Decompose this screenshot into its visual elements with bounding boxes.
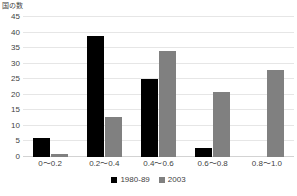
x-tick-label: 0〜0.2 [23,159,77,169]
bar-group [77,17,131,157]
y-tick-label: 5 [0,137,20,145]
legend-swatch-icon [111,177,117,183]
bar [159,51,176,157]
bar-group [186,17,240,157]
y-tick-label: 25 [0,75,20,83]
legend-label: 1980-89 [120,175,149,184]
x-tick-label: 0.4〜0.6 [131,159,185,169]
bar-chart: 国の数 051015202530354045 0〜0.20.2〜0.40.4〜0… [0,0,297,196]
y-tick-label: 40 [0,29,20,37]
y-axis-tick-labels: 051015202530354045 [0,17,20,157]
legend-label: 2003 [168,175,186,184]
bar [141,79,158,157]
bar [213,92,230,157]
x-tick-label: 0.6〜0.8 [186,159,240,169]
x-axis-tick-labels: 0〜0.20.2〜0.40.4〜0.60.6〜0.80.8〜1.0 [23,159,294,173]
y-tick-label: 0 [0,153,20,161]
chart-legend: 1980-892003 [0,175,297,184]
bar [33,138,50,157]
y-axis-title: 国の数 [2,1,23,10]
x-tick-label: 0.2〜0.4 [77,159,131,169]
legend-item[interactable]: 2003 [159,175,186,184]
legend-item[interactable]: 1980-89 [111,175,149,184]
bar [87,36,104,157]
bar [51,154,68,157]
bar-group [23,17,77,157]
y-tick-label: 10 [0,122,20,130]
legend-swatch-icon [159,177,165,183]
y-tick-label: 35 [0,44,20,52]
bar-group [131,17,185,157]
bar-group [240,17,294,157]
bar [267,70,284,157]
y-tick-label: 45 [0,13,20,21]
y-tick-label: 20 [0,91,20,99]
x-tick-label: 0.8〜1.0 [240,159,294,169]
y-tick-label: 30 [0,60,20,68]
bar [105,117,122,157]
plot-area [23,17,294,157]
y-tick-label: 15 [0,106,20,114]
bar [195,148,212,157]
